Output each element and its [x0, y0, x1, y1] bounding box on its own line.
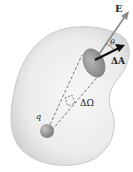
- point-charge: [40, 124, 54, 138]
- label-charge: q: [36, 112, 41, 121]
- gauss-law-diagram: E θ ΔA ΔΩ q: [0, 0, 133, 172]
- label-angle: θ: [110, 38, 115, 47]
- label-field: E: [115, 3, 123, 14]
- label-solid-angle: ΔΩ: [80, 98, 94, 108]
- label-area-element: ΔA: [111, 56, 126, 66]
